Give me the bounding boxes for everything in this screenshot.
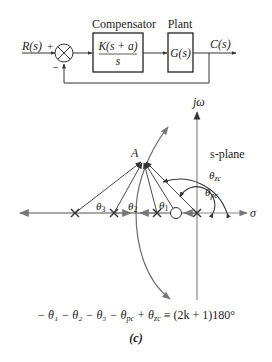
figure: R(s) + − Compensator K(s + a) s Plant G(… bbox=[0, 0, 272, 362]
theta3-label: θ3 bbox=[96, 200, 105, 214]
s-plane-label: s-plane bbox=[210, 147, 245, 161]
real-axis-label: σ bbox=[250, 206, 257, 220]
theta1-label: θ1 bbox=[159, 199, 168, 213]
imaginary-axis-label: jω bbox=[191, 95, 205, 109]
minus-sign: − bbox=[52, 61, 58, 73]
compensator-denominator: s bbox=[116, 55, 121, 67]
plant-transfer: G(s) bbox=[170, 47, 191, 60]
theta-pc-label: θpc bbox=[205, 186, 218, 200]
theta-zc-label: θzc bbox=[209, 169, 222, 183]
plant-title: Plant bbox=[168, 17, 193, 31]
locus-branch-lower bbox=[136, 213, 170, 299]
block-diagram: R(s) + − Compensator K(s + a) s Plant G(… bbox=[21, 17, 236, 83]
summing-junction-icon bbox=[55, 44, 73, 62]
compensator-numerator: K(s + a) bbox=[97, 40, 137, 53]
figure-caption: (c) bbox=[129, 331, 142, 345]
angle-condition-equation: − θ₁ − θ₂ − θ₃ − θpc + θzc ≡ (2k + 1)180… bbox=[37, 308, 235, 323]
output-label: C(s) bbox=[210, 37, 231, 51]
plus-sign: + bbox=[47, 40, 53, 52]
compensator-title: Compensator bbox=[92, 17, 156, 31]
input-label: R(s) bbox=[21, 39, 42, 53]
zero-icon bbox=[171, 208, 182, 219]
point-a-label: A bbox=[130, 146, 139, 160]
root-locus-plot: jω σ A bbox=[20, 95, 257, 300]
